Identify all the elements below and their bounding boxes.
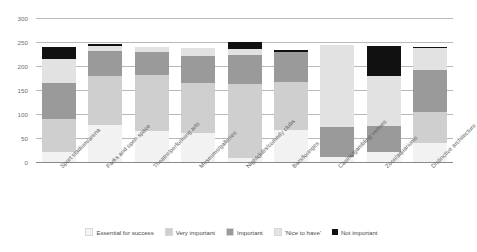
y-axis-tick-label: 150 (17, 87, 28, 94)
bar-segment[interactable] (135, 52, 169, 75)
legend-swatch (274, 228, 282, 236)
plot-area (36, 18, 453, 162)
bar-segment[interactable] (135, 75, 169, 131)
y-axis-tick-label: 300 (17, 15, 28, 22)
stacked-bar[interactable] (135, 18, 169, 162)
y-axis-tick-label: 50 (21, 135, 28, 142)
stacked-bar[interactable] (228, 18, 262, 162)
x-axis-label-slot: Parks and open space (88, 162, 122, 220)
x-axis-label-slot: Museums/galleries (181, 162, 215, 220)
legend-swatch (85, 228, 93, 236)
x-axis-label-slot: Distinctive architecture (413, 162, 447, 220)
legend-swatch (226, 228, 234, 236)
legend-item[interactable]: Very important (165, 228, 215, 236)
bar-segment[interactable] (42, 47, 76, 59)
x-axis-label-slot: Bars/lounges (274, 162, 308, 220)
y-axis-tick-label: 250 (17, 39, 28, 46)
x-axis-label-slot: Casino/gambling venues (320, 162, 354, 220)
legend-label: Very important (176, 229, 215, 236)
bar-segment[interactable] (320, 45, 354, 127)
stacked-bar[interactable] (181, 18, 215, 162)
y-axis-tick-label: 100 (17, 111, 28, 118)
y-axis-tick-label: 200 (17, 63, 28, 70)
legend-swatch (165, 228, 173, 236)
bar-segment[interactable] (42, 119, 76, 153)
x-axis-label-slot: Theatre/performing arts (135, 162, 169, 220)
legend-item[interactable]: Essential for success (85, 228, 153, 236)
chart-legend: Essential for successVery importantImpor… (0, 228, 463, 236)
bar-segment[interactable] (228, 84, 262, 158)
stacked-bar[interactable] (413, 18, 447, 162)
legend-label: 'Nice to have' (285, 229, 321, 236)
x-axis-label-slot: Zoos/aquariums (367, 162, 401, 220)
bar-segment[interactable] (228, 55, 262, 83)
stacked-bar[interactable] (320, 18, 354, 162)
bar-segment[interactable] (181, 48, 215, 57)
legend-item[interactable]: 'Nice to have' (274, 228, 321, 236)
legend-item[interactable]: Important (226, 228, 263, 236)
bar-segment[interactable] (42, 83, 76, 119)
stacked-bar[interactable] (88, 18, 122, 162)
bar-segment[interactable] (413, 48, 447, 70)
legend-swatch (332, 229, 338, 235)
bar-segment[interactable] (181, 56, 215, 82)
bar-segment[interactable] (367, 46, 401, 76)
bar-segment[interactable] (88, 51, 122, 76)
bar-segment[interactable] (228, 42, 262, 49)
stacked-bar[interactable] (274, 18, 308, 162)
legend-item[interactable]: Not important (332, 229, 378, 236)
x-axis-label-slot: Sport stadium/arena (42, 162, 76, 220)
x-axis-label-slot: Nightclubs/comedy clubs (228, 162, 262, 220)
bar-segment[interactable] (42, 59, 76, 83)
bar-segment[interactable] (413, 70, 447, 112)
legend-label: Essential for success (96, 229, 153, 236)
bar-segment[interactable] (88, 76, 122, 125)
stacked-bar[interactable] (42, 18, 76, 162)
x-axis: Sport stadium/arenaParks and open spaceT… (36, 162, 453, 220)
legend-label: Not important (341, 229, 378, 236)
y-axis: 050100150200250300 (0, 18, 30, 162)
legend-label: Important (237, 229, 263, 236)
y-axis-tick-label: 0 (24, 159, 28, 166)
bar-group (36, 18, 453, 162)
stacked-bar[interactable] (367, 18, 401, 162)
bar-segment[interactable] (274, 52, 308, 82)
